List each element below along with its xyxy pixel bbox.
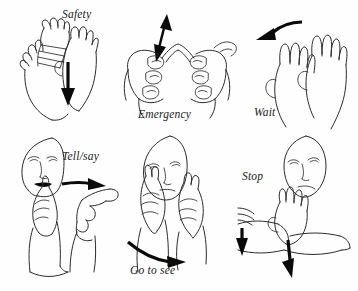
drawing-safety (0, 0, 120, 130)
drawing-stop (238, 132, 358, 291)
illustration-sheet: Safety (0, 0, 358, 291)
panel-label-safety: Safety (62, 8, 91, 20)
panel-label-go-to-see: Go to see (130, 264, 175, 276)
panel-label-stop: Stop (242, 170, 263, 182)
panel-stop: Stop (238, 132, 358, 291)
panel-label-wait: Wait (254, 106, 275, 118)
panel-safety: Safety (0, 0, 120, 130)
panel-wait: Wait (242, 0, 358, 132)
double-arrow-vertical-icon (154, 14, 172, 62)
panel-label-emergency: Emergency (138, 108, 191, 120)
down-arrow-right-icon (282, 240, 294, 278)
curved-arrow-right-icon (62, 178, 106, 190)
panel-emergency: Emergency (118, 0, 244, 132)
panel-label-tell-say: Tell/say (62, 150, 99, 162)
curved-arrow-left-icon (256, 22, 302, 40)
panel-go-to-see: Go to see (122, 132, 244, 291)
panel-tell-say: Tell/say (0, 132, 128, 291)
